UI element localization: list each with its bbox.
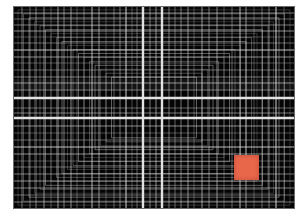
orange-square [234, 155, 259, 180]
artwork-panel [14, 7, 294, 208]
